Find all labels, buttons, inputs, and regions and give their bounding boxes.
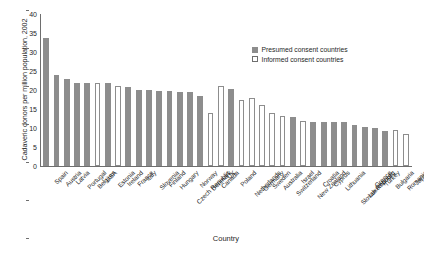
- x-axis-title: Country: [40, 234, 412, 243]
- bar: [372, 128, 378, 166]
- bar: [341, 122, 347, 166]
- bar: [321, 122, 327, 166]
- bar: [95, 83, 101, 166]
- bar: [64, 79, 70, 166]
- y-tick-label: 25: [29, 68, 37, 75]
- y-tick-label: 10: [29, 125, 37, 132]
- y-tick-mark: [26, 238, 29, 239]
- bar: [393, 130, 399, 166]
- bar: [208, 113, 214, 166]
- plot-area: 0510152025303540 SpainAustriaLatviaPortu…: [40, 14, 412, 166]
- bar: [105, 83, 111, 166]
- legend-swatch-informed: [252, 56, 258, 62]
- chart-figure: Cadaveric donors per million population,…: [0, 0, 424, 261]
- y-tick-label: 35: [29, 30, 37, 37]
- bar: [115, 86, 121, 166]
- y-tick-label: 0: [33, 163, 37, 170]
- y-tick-label: 20: [29, 87, 37, 94]
- y-tick-mark: [26, 200, 29, 201]
- bar: [403, 134, 409, 166]
- bar: [197, 96, 203, 166]
- y-tick-label: 30: [29, 49, 37, 56]
- y-tick-label: 15: [29, 106, 37, 113]
- legend-item-presumed: Presumed consent countries: [252, 46, 348, 53]
- y-tick-mark: [26, 162, 29, 163]
- bar: [136, 90, 142, 166]
- bar: [362, 127, 368, 166]
- x-tick-label: Poland: [239, 169, 258, 188]
- bar: [228, 89, 234, 166]
- bar: [177, 92, 183, 166]
- legend-item-informed: Informed consent countries: [252, 56, 348, 63]
- bar: [156, 91, 162, 166]
- bar: [125, 87, 131, 166]
- x-axis-line: [40, 166, 412, 167]
- bar: [239, 100, 245, 167]
- bar: [43, 38, 49, 166]
- bar: [280, 116, 286, 166]
- bar: [167, 91, 173, 166]
- legend-label: Presumed consent countries: [262, 46, 348, 53]
- bar: [146, 90, 152, 166]
- bar: [218, 86, 224, 166]
- bar: [54, 75, 60, 166]
- bar: [310, 122, 316, 166]
- bar: [249, 98, 255, 166]
- bar: [259, 105, 265, 166]
- bar: [269, 113, 275, 166]
- bar-series: [41, 14, 412, 166]
- y-tick-label: 40: [29, 11, 37, 18]
- y-tick-label: 5: [33, 144, 37, 151]
- y-tick-mark: [26, 48, 29, 49]
- bar: [290, 117, 296, 166]
- y-tick-mark: [26, 10, 29, 11]
- y-tick-mark: [26, 86, 29, 87]
- bar: [187, 92, 193, 166]
- bar: [84, 83, 90, 166]
- bar: [300, 121, 306, 166]
- bar: [74, 83, 80, 166]
- chart-legend: Presumed consent countriesInformed conse…: [252, 46, 348, 65]
- legend-label: Informed consent countries: [262, 56, 344, 63]
- y-axis-title: Cadaveric donors per million population,…: [20, 0, 29, 180]
- bar: [382, 131, 388, 166]
- legend-swatch-presumed: [252, 47, 258, 53]
- y-tick-mark: [26, 124, 29, 125]
- bar: [331, 122, 337, 166]
- bar: [352, 125, 358, 166]
